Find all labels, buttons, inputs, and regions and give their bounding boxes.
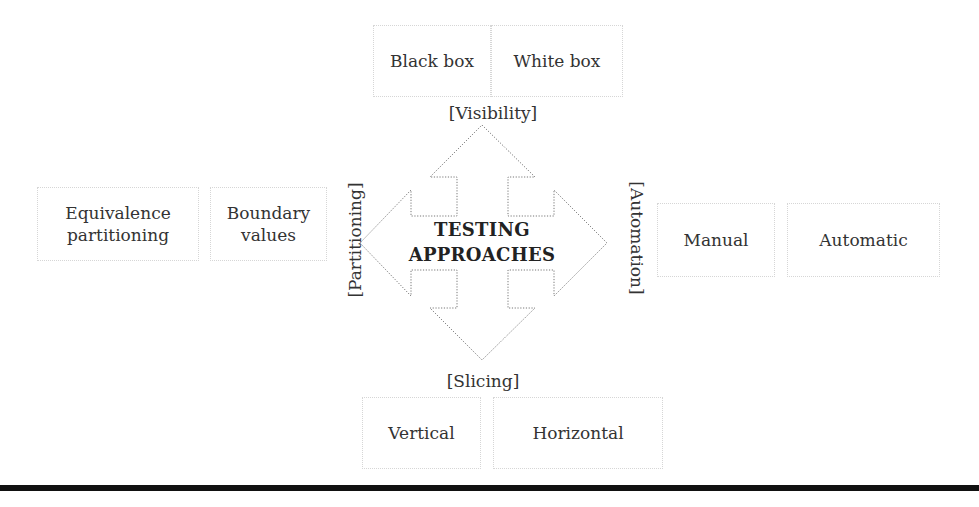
automation-label: [Automation] bbox=[627, 181, 647, 294]
vertical-option: Vertical bbox=[362, 397, 481, 469]
automatic-option: Automatic bbox=[787, 203, 940, 277]
horizontal-option: Horizontal bbox=[493, 397, 663, 469]
white-box-option: White box bbox=[491, 25, 623, 97]
horizontal-text: Horizontal bbox=[532, 422, 623, 444]
slicing-label: [Slicing] bbox=[447, 371, 520, 391]
center-title: TESTING APPROACHES bbox=[409, 217, 556, 267]
vertical-text: Vertical bbox=[388, 422, 454, 444]
equivalence-partitioning-option: Equivalence partitioning bbox=[37, 187, 199, 261]
black-box-option: Black box bbox=[373, 25, 491, 97]
automatic-text: Automatic bbox=[819, 229, 907, 251]
white-box-text: White box bbox=[514, 50, 601, 72]
manual-text: Manual bbox=[683, 229, 748, 251]
partitioning-label: [Partitioning] bbox=[345, 182, 365, 297]
center-title-line2: APPROACHES bbox=[409, 242, 556, 267]
boundary-values-text: Boundary values bbox=[224, 202, 314, 246]
equivalence-partitioning-text: Equivalence partitioning bbox=[58, 202, 178, 246]
visibility-label: [Visibility] bbox=[449, 103, 537, 123]
manual-option: Manual bbox=[657, 203, 775, 277]
bottom-divider bbox=[0, 485, 979, 491]
black-box-text: Black box bbox=[390, 50, 474, 72]
center-title-line1: TESTING bbox=[409, 217, 556, 242]
boundary-values-option: Boundary values bbox=[210, 187, 327, 261]
